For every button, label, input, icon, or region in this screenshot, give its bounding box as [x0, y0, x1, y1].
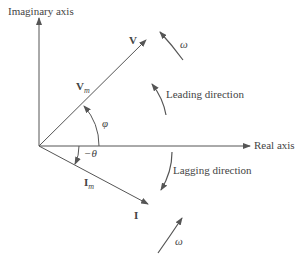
leading-arrow [152, 84, 166, 115]
leading-direction-label: Leading direction [166, 88, 244, 100]
current-magnitude-label: Im [84, 176, 94, 191]
theta-arc [75, 146, 79, 164]
phasor-diagram [0, 0, 300, 259]
theta-label: −θ [84, 147, 97, 159]
vm-main: V [76, 80, 84, 92]
im-sub: m [88, 182, 94, 191]
lagging-direction-label: Lagging direction [173, 164, 252, 176]
current-label: I [134, 209, 138, 221]
vm-sub: m [84, 86, 90, 95]
voltage-phasor [39, 40, 146, 146]
omega-top-label: ω [180, 38, 188, 50]
voltage-label: V [129, 34, 137, 46]
lagging-arrow [161, 152, 172, 190]
omega-bottom-label: ω [175, 235, 183, 247]
phi-label: φ [102, 117, 108, 129]
phi-arc [84, 106, 99, 146]
real-axis-label: Real axis [254, 139, 295, 151]
voltage-magnitude-label: Vm [76, 80, 90, 95]
imaginary-axis-label: Imaginary axis [8, 5, 74, 17]
